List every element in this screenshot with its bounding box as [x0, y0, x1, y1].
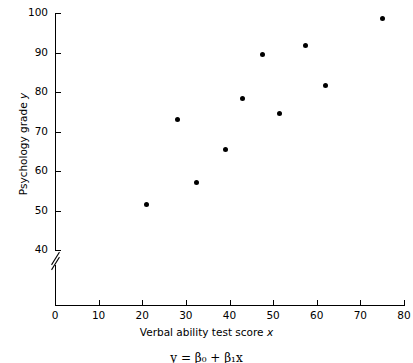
x-tick-label: 80	[384, 309, 413, 321]
data-point	[240, 96, 245, 101]
data-point	[303, 43, 308, 48]
x-tick-label: 20	[122, 309, 162, 321]
data-point	[144, 202, 149, 207]
x-tick-label: 50	[253, 309, 293, 321]
x-tick	[142, 300, 143, 306]
x-axis-label-text: Verbal ability test score	[140, 326, 264, 338]
data-point	[223, 147, 228, 152]
y-tick-label: 100	[18, 7, 48, 18]
x-tick	[230, 300, 231, 306]
x-tick	[186, 300, 187, 306]
y-tick	[55, 250, 61, 251]
y-tick-label: 90	[18, 47, 48, 58]
y-tick	[55, 211, 61, 212]
data-point	[260, 52, 265, 57]
x-axis-label: Verbal ability test score x	[0, 326, 413, 338]
y-axis-break-icon	[47, 252, 65, 268]
x-tick-label: 70	[340, 309, 380, 321]
y-tick	[55, 171, 61, 172]
y-tick-label: 40	[18, 244, 48, 255]
y-tick	[55, 53, 61, 54]
scatter-chart: 405060708090100 01020304050607080 Verbal…	[0, 0, 413, 363]
x-axis-label-variable: x	[267, 326, 273, 338]
data-point	[380, 16, 385, 21]
y-tick	[55, 132, 61, 133]
data-point	[194, 180, 199, 185]
x-tick	[404, 300, 405, 306]
caption-equation: y = β₀ + β₁x	[0, 351, 413, 363]
x-tick-label: 60	[297, 309, 337, 321]
x-tick	[317, 300, 318, 306]
y-tick	[55, 13, 61, 14]
x-tick	[55, 300, 56, 306]
x-tick	[360, 300, 361, 306]
y-axis-label: Psychology grade y	[17, 64, 29, 224]
data-point	[277, 111, 282, 116]
x-tick-label: 30	[166, 309, 206, 321]
y-axis-label-text: Psychology grade	[17, 102, 29, 195]
x-tick-label: 40	[210, 309, 250, 321]
x-tick	[273, 300, 274, 306]
y-axis-label-variable: y	[17, 93, 29, 99]
y-tick	[55, 92, 61, 93]
x-tick-label: 0	[35, 309, 75, 321]
data-point	[175, 117, 180, 122]
x-tick-label: 10	[79, 309, 119, 321]
data-point	[323, 83, 328, 88]
x-tick	[99, 300, 100, 306]
